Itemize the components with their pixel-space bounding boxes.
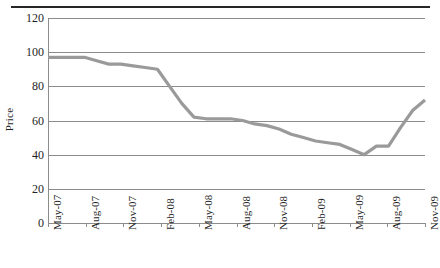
x-tick-label-may-07: May-07 [52, 195, 63, 230]
x-tick-label-nov-08: Nov-08 [278, 196, 289, 230]
x-tick-label-may-09: May-09 [354, 195, 365, 230]
x-tick-label-aug-09: Aug-09 [391, 196, 402, 230]
x-tick-label-aug-08: Aug-08 [241, 196, 252, 230]
x-tick-label-nov-09: Nov-09 [429, 196, 440, 230]
x-tick-label-feb-08: Feb-08 [165, 198, 176, 230]
x-tick-label-aug-07: Aug-07 [90, 196, 101, 230]
x-tick-label-nov-07: Nov-07 [127, 196, 138, 230]
x-tick-label-may-08: May-08 [203, 195, 214, 230]
x-tick-label-feb-09: Feb-09 [316, 198, 327, 230]
